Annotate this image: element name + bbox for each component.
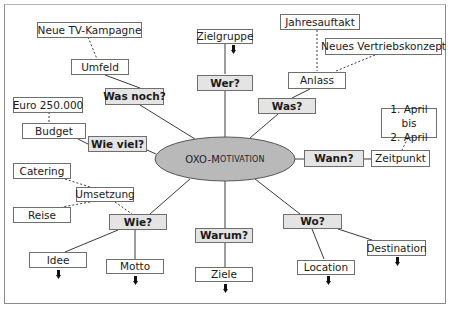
down-arrow-icon	[231, 45, 236, 54]
down-arrow-icon	[395, 257, 400, 266]
topic-location: Location	[297, 260, 355, 275]
question-wie-viel: Wie viel?	[88, 136, 147, 152]
detail-reise: Reise	[13, 207, 71, 223]
center-label: OXO-MOTIVATION	[155, 150, 295, 168]
center-label-rest: OTIVATION	[220, 155, 265, 164]
topic-zeitpunkt: Zeitpunkt	[371, 150, 430, 167]
topic-idee: Idee	[29, 252, 87, 268]
question-was: Was?	[258, 98, 316, 114]
down-arrow-icon	[133, 276, 138, 285]
question-wo: Wo?	[283, 214, 342, 229]
topic-umsetzung: Umsetzung	[76, 187, 134, 202]
question-wer: Wer?	[197, 75, 253, 91]
center-label-prefix: OXO-M	[185, 154, 220, 165]
detail-euro-betrag: Euro 250.000	[13, 97, 83, 113]
detail-datum: 1. April bis 2. April	[381, 108, 437, 138]
detail-neues-vertriebskonzept: Neues Vertriebskonzept	[325, 38, 442, 55]
down-arrow-icon	[326, 276, 331, 285]
down-arrow-icon	[223, 284, 228, 293]
detail-catering: Catering	[13, 163, 71, 179]
topic-ziele: Ziele	[195, 267, 253, 282]
topic-anlass: Anlass	[288, 72, 346, 89]
topic-budget: Budget	[22, 123, 86, 139]
down-arrow-icon	[56, 270, 61, 279]
question-warum: Warum?	[195, 228, 253, 243]
topic-zielgruppe: Zielgruppe	[197, 29, 253, 44]
topic-motto: Motto	[106, 259, 164, 274]
question-wann: Wann?	[304, 150, 364, 167]
detail-jahresauftakt: Jahresauftakt	[280, 14, 360, 30]
datum-line1: 1. April bis	[382, 102, 436, 130]
question-was-noch: Was noch?	[105, 88, 164, 105]
topic-umfeld: Umfeld	[71, 59, 129, 75]
topic-destination: Destination	[367, 240, 426, 256]
detail-neue-tv-kampagne: Neue TV-Kampagne	[37, 22, 142, 38]
datum-line2: 2. April	[390, 130, 427, 144]
question-wie: Wie?	[109, 214, 167, 230]
